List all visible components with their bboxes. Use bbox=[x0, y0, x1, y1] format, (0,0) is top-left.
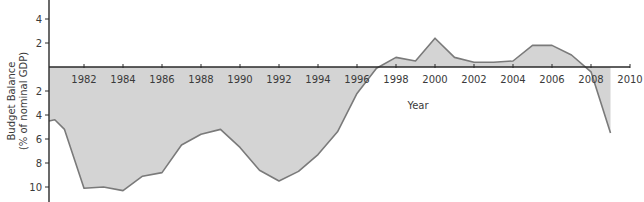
y-tick-label: 2 bbox=[36, 38, 42, 49]
x-tick-label: 1990 bbox=[227, 74, 252, 85]
x-tick-label: 1982 bbox=[71, 74, 96, 85]
y-axis-title-line-2: (% of nominal GDP) bbox=[18, 52, 29, 150]
budget-balance-chart: 1982198419861988199019921994199619982000… bbox=[0, 0, 644, 202]
x-tick-label: 1994 bbox=[305, 74, 330, 85]
y-axis-title-line-1: Budget Balance bbox=[6, 61, 17, 140]
x-tick-label: 2010 bbox=[617, 74, 642, 85]
x-tick-label: 1988 bbox=[188, 74, 213, 85]
y-tick-label: 8 bbox=[36, 158, 42, 169]
x-tick-label: 1996 bbox=[344, 74, 369, 85]
x-tick-label: 2002 bbox=[461, 74, 486, 85]
deficit-surplus-area bbox=[49, 38, 611, 190]
y-tick-label: 2 bbox=[36, 86, 42, 97]
x-tick-label: 2008 bbox=[578, 74, 603, 85]
y-tick-label: 10 bbox=[29, 182, 42, 193]
y-tick-label: 4 bbox=[36, 14, 42, 25]
x-tick-label: 1984 bbox=[110, 74, 135, 85]
x-tick-label: 1986 bbox=[149, 74, 174, 85]
x-tick-label: 2004 bbox=[500, 74, 525, 85]
area-fill bbox=[49, 38, 611, 190]
x-tick-label: 2000 bbox=[422, 74, 447, 85]
y-axis-ticks: 42246810 bbox=[29, 14, 49, 193]
x-tick-label: 1992 bbox=[266, 74, 291, 85]
x-tick-label: 1998 bbox=[383, 74, 408, 85]
x-tick-label: 2006 bbox=[539, 74, 564, 85]
x-axis-title: Year bbox=[406, 100, 429, 111]
y-axis-title: Budget Balance (% of nominal GDP) bbox=[6, 52, 29, 150]
y-tick-label: 4 bbox=[36, 110, 42, 121]
y-tick-label: 6 bbox=[36, 134, 42, 145]
